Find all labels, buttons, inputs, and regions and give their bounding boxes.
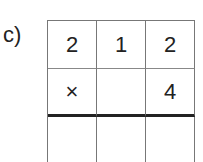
grid-cell: 4 [146, 69, 195, 117]
answer-cell[interactable] [48, 117, 97, 162]
grid-row-multiplicand: 2 1 2 [48, 21, 195, 69]
grid-cell: 2 [146, 21, 195, 69]
times-symbol: × [48, 69, 97, 117]
answer-cell[interactable] [97, 117, 146, 162]
problem-label: c) [3, 24, 21, 46]
grid-cell: 2 [48, 21, 97, 69]
grid-row-answer [48, 117, 195, 162]
grid-cell: 1 [97, 21, 146, 69]
grid-row-multiplier: × 4 [48, 69, 195, 117]
answer-cell[interactable] [146, 117, 195, 162]
grid-cell [97, 69, 146, 117]
multiplication-grid: 2 1 2 × 4 [47, 20, 195, 162]
